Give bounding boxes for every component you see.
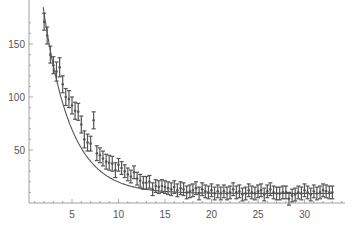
- x-tick-label: 20: [206, 209, 218, 220]
- x-tick-label: 5: [69, 209, 75, 220]
- x-tick-label: 15: [159, 209, 171, 220]
- data-point: [151, 183, 155, 196]
- data-point: [61, 76, 65, 93]
- data-point: [237, 185, 241, 198]
- y-tick-label: 150: [8, 39, 25, 50]
- data-point: [58, 58, 62, 77]
- x-tick-label: 10: [113, 209, 125, 220]
- data-point: [107, 155, 111, 170]
- chart: 5101520253050100150: [0, 0, 352, 226]
- data-point: [234, 186, 238, 199]
- data-point: [330, 186, 334, 199]
- data-point: [120, 162, 124, 175]
- data-point: [92, 112, 96, 129]
- data-point: [188, 185, 192, 198]
- data-point: [240, 188, 244, 201]
- data-point: [290, 189, 294, 202]
- data-point: [197, 187, 201, 200]
- data-point: [113, 163, 117, 178]
- data-point: [73, 102, 77, 119]
- data-point: [48, 46, 52, 63]
- data-point: [262, 188, 266, 201]
- data-point: [89, 136, 93, 151]
- data-point: [70, 97, 74, 114]
- data-point: [324, 185, 328, 198]
- y-tick-label: 100: [8, 92, 25, 103]
- data-point: [182, 183, 186, 196]
- data-point: [281, 186, 285, 199]
- data-point: [76, 103, 80, 120]
- data-point: [272, 186, 276, 199]
- x-tick-label: 30: [299, 209, 311, 220]
- plot-area: [42, 7, 334, 205]
- axes: 5101520253050100150: [8, 0, 345, 220]
- data-point: [101, 151, 105, 166]
- data-point: [104, 154, 108, 169]
- data-point: [144, 177, 148, 190]
- data-point: [110, 156, 114, 171]
- data-point: [228, 186, 232, 199]
- data-point: [117, 158, 121, 171]
- data-point: [157, 181, 161, 194]
- data-point: [123, 165, 127, 178]
- data-point: [166, 182, 170, 195]
- data-point: [327, 186, 331, 199]
- data-point: [147, 175, 151, 188]
- y-tick-label: 50: [14, 145, 26, 156]
- x-tick-label: 25: [252, 209, 264, 220]
- data-point: [259, 184, 263, 197]
- fit-curve: [43, 7, 332, 193]
